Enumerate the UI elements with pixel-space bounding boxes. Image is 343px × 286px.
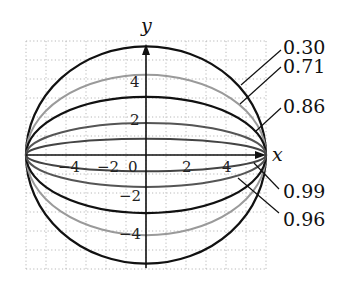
- ellipse-eccentricity-figure: x y −4 −2 0 2 4 4 2 −2 −4 0.300.710.860.…: [0, 0, 343, 286]
- x-axis-label: x: [272, 143, 283, 165]
- y-tick-label: 2: [130, 111, 140, 129]
- x-tick-label: −4: [58, 158, 80, 176]
- eccentricity-label: 0.86: [283, 95, 325, 117]
- y-tick-label: −4: [119, 225, 141, 243]
- x-tick-label: 2: [182, 158, 192, 176]
- figure-canvas: x y −4 −2 0 2 4 4 2 −2 −4 0.300.710.860.…: [0, 0, 343, 286]
- leader-line: [241, 50, 281, 85]
- x-tick-label: −2: [97, 158, 119, 176]
- y-axis-label: y: [140, 14, 152, 36]
- y-tick-label: 4: [130, 73, 140, 91]
- eccentricity-label: 0.71: [283, 55, 325, 77]
- eccentricity-label: 0.96: [283, 208, 325, 230]
- eccentricity-labels: 0.300.710.860.990.96: [283, 36, 325, 230]
- x-tick-label: 0: [128, 158, 138, 176]
- eccentricity-label: 0.99: [283, 180, 325, 202]
- x-tick-label: 4: [222, 158, 232, 176]
- axes: x y: [26, 14, 283, 268]
- y-tick-label: −2: [119, 187, 141, 205]
